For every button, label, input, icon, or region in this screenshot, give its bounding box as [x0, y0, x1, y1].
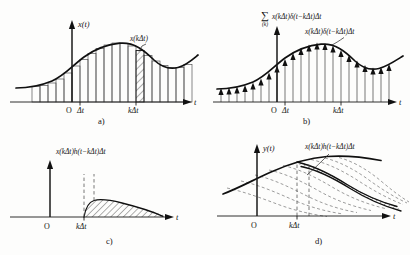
panel-b-annotation: x(kΔt)δ(t−kΔt)Δt [304, 27, 355, 36]
panel-a-caption: a) [98, 116, 105, 126]
panel-d-y-axis-label: y(t) [262, 144, 275, 153]
axis-ticks-b [285, 102, 341, 106]
panel-b-caption: b) [303, 116, 310, 126]
axis-x-a [10, 99, 192, 105]
panel-b-y-axis-label: ∑ (k) x(kΔt)δ(t−kΔt)Δt [261, 9, 322, 28]
panel-a-annotation: x(kΔt) [129, 34, 148, 43]
panel-a-tick-origin: O [66, 106, 72, 115]
panel-b-x-axis-label: t [399, 98, 402, 107]
dashed-response-family [227, 158, 409, 217]
sigma-subscript: (k) [262, 21, 268, 28]
panel-b: ∑ (k) x(kΔt)δ(t−kΔt)Δt x(kΔt)δ(t−kΔt)Δt … [205, 0, 410, 128]
signal-curve-a [16, 43, 198, 88]
panel-c-caption: c) [106, 236, 113, 246]
panel-d-annotation: x(kΔt)h(t−kΔt)Δt [304, 142, 356, 151]
sampling-bars [32, 43, 192, 102]
figure-root: x(t) t x(kΔt) O Δt kΔt a) [0, 0, 410, 255]
panel-c-tick-kdelta: kΔt [76, 222, 87, 231]
axis-y-b [274, 26, 280, 102]
highlighted-sample-strip [136, 51, 144, 103]
panel-b-tick-delta: Δt [281, 106, 290, 115]
panel-c-annotation: x(kΔt)h(t−kΔt)Δt [55, 147, 107, 156]
impulse-train [218, 43, 391, 103]
panel-d-tick-origin: O [251, 221, 257, 230]
axis-x-d [217, 213, 391, 219]
panel-d-tick-kdelta: kΔt [289, 221, 300, 230]
panel-c-x-axis-label: t [176, 213, 179, 222]
panel-d-x-axis-label: t [393, 212, 396, 221]
sigma-formula-rest: x(kΔt)δ(t−kΔt)Δt [271, 12, 322, 21]
axis-ticks-a [80, 102, 136, 106]
envelope-curve-d [223, 156, 381, 194]
panel-a-y-axis-label: x(t) [77, 20, 90, 29]
panel-a-tick-delta: Δt [76, 106, 85, 115]
panel-b-tick-origin: O [271, 106, 277, 115]
impulse-response-area [84, 200, 164, 217]
annotation-leader-b [331, 38, 344, 46]
panel-d: y(t) x(kΔt)h(t−kΔt)Δt t O kΔt d) [205, 128, 410, 255]
panel-a: x(t) t x(kΔt) O Δt kΔt a) [0, 0, 205, 128]
panel-c: x(kΔt)h(t−kΔt)Δt t O kΔt c) [0, 128, 205, 255]
panel-c-tick-origin: O [44, 222, 50, 231]
panel-b-tick-kdelta: kΔt [333, 106, 344, 115]
panel-a-tick-kdelta: kΔt [128, 106, 139, 115]
axis-y-c [47, 160, 53, 217]
panel-d-caption: d) [315, 236, 322, 246]
panel-a-x-axis-label: t [194, 98, 197, 107]
axis-y-a [69, 20, 75, 102]
axis-x-b [213, 99, 397, 105]
